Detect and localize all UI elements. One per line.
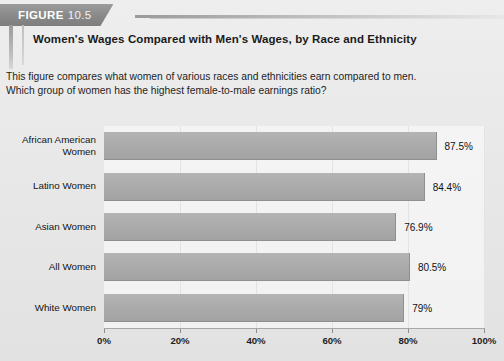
figure-title: Women's Wages Compared with Men's Wages,… [33, 33, 417, 45]
figure-description: This figure compares what women of vario… [6, 70, 476, 97]
bar[interactable] [104, 253, 410, 281]
bar-value-label: 79% [412, 303, 432, 314]
category-label-line: Asian Women [35, 221, 96, 234]
bar-value-label: 87.5% [445, 141, 473, 152]
category-label-line: All Women [49, 261, 96, 274]
category-label: African AmericanWomen [0, 126, 96, 166]
x-axis-label: 100% [472, 335, 497, 346]
figure-container: FIGURE 10.5 Women's Wages Compared with … [0, 0, 504, 361]
figure-banner-number: 10.5 [68, 9, 92, 21]
bar-value-label: 80.5% [418, 262, 446, 273]
x-axis-tick [256, 329, 257, 333]
bar[interactable] [104, 173, 425, 201]
figure-description-line-2: Which group of women has the highest fem… [6, 84, 476, 98]
category-label: Asian Women [0, 207, 96, 247]
category-label-line: African American [22, 134, 96, 147]
bar-row: Asian Women76.9% [0, 207, 504, 247]
figure-description-line-1: This figure compares what women of vario… [6, 70, 476, 84]
bar-value-label: 84.4% [433, 182, 461, 193]
bar-row: Latino Women84.4% [0, 166, 504, 206]
bar-row: African AmericanWomen87.5% [0, 126, 504, 166]
bar[interactable] [104, 294, 404, 322]
banner-rule-thin [150, 18, 504, 19]
x-axis-tick [180, 329, 181, 333]
bar-row: All Women80.5% [0, 247, 504, 287]
x-axis-tick [104, 329, 105, 333]
x-axis-line [104, 328, 485, 329]
x-axis-tick [408, 329, 409, 333]
x-axis-label: 20% [170, 335, 189, 346]
category-label: All Women [0, 247, 96, 287]
x-axis-label: 80% [398, 335, 417, 346]
x-axis-label: 0% [97, 335, 111, 346]
category-label-line: Latino Women [33, 180, 96, 193]
figure-banner-label: FIGURE [18, 9, 64, 21]
figure-banner-tab: FIGURE 10.5 [0, 4, 113, 26]
bar-row: White Women79% [0, 288, 504, 328]
category-label: Latino Women [0, 166, 96, 206]
figure-banner: FIGURE 10.5 [0, 4, 504, 26]
x-axis-label: 60% [322, 335, 341, 346]
bar[interactable] [104, 213, 396, 241]
x-axis-label: 40% [246, 335, 265, 346]
bar[interactable] [104, 132, 437, 160]
category-label-line: White Women [35, 302, 96, 315]
x-axis-tick [332, 329, 333, 333]
x-axis-tick [484, 329, 485, 333]
bar-chart: 0%20%40%60%80%100% African AmericanWomen… [0, 112, 504, 361]
left-accent-bar-secondary [22, 25, 24, 65]
left-accent-bar [9, 25, 13, 69]
bar-value-label: 76.9% [404, 222, 432, 233]
category-label: White Women [0, 288, 96, 328]
category-label-line: Women [62, 146, 96, 159]
